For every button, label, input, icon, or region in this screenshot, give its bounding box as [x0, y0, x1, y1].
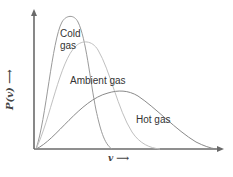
x-axis-label: v ⟶	[108, 153, 129, 163]
x-axis-arrow-icon	[217, 146, 224, 152]
cold-gas-label-line1: Cold	[60, 28, 81, 39]
chart-canvas	[0, 0, 233, 177]
ambient-gas-label: Ambient gas	[70, 75, 126, 86]
hot-gas-label: Hot gas	[136, 114, 170, 125]
cold-gas-label-line2: gas	[60, 40, 76, 51]
y-axis-arrow-icon	[31, 9, 37, 16]
y-axis-label: P(v) ⟶	[4, 69, 15, 110]
ambient-gas-curve	[36, 42, 160, 149]
